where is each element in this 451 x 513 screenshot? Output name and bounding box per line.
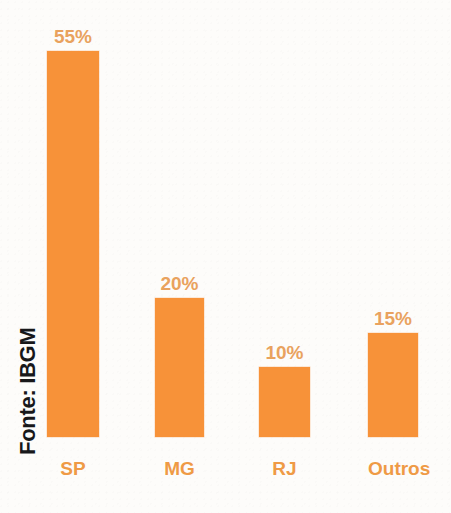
bar-group-rj: 10% RJ — [259, 0, 310, 513]
bar-category-label: SP — [47, 458, 99, 480]
bar-group-outros: 15% Outros — [368, 0, 418, 513]
bar-category-label: RJ — [259, 458, 310, 480]
bar-chart: Fonte: IBGM 55% SP 20% MG 10% RJ 15% Out… — [0, 0, 451, 513]
bar-value-label: 20% — [155, 273, 204, 295]
bar-rect[interactable] — [368, 333, 418, 437]
bar-group-sp: 55% SP — [47, 0, 99, 513]
bar-value-label: 15% — [368, 308, 418, 330]
bar-category-label: MG — [155, 458, 204, 480]
bar-value-label: 10% — [259, 342, 310, 364]
bar-value-label: 55% — [47, 26, 99, 48]
plot-area: 55% SP 20% MG 10% RJ 15% Outros — [0, 0, 451, 513]
bar-rect[interactable] — [259, 367, 310, 437]
bar-rect[interactable] — [47, 51, 99, 437]
bar-rect[interactable] — [155, 298, 204, 437]
bar-category-label: Outros — [368, 458, 418, 480]
bar-group-mg: 20% MG — [155, 0, 204, 513]
